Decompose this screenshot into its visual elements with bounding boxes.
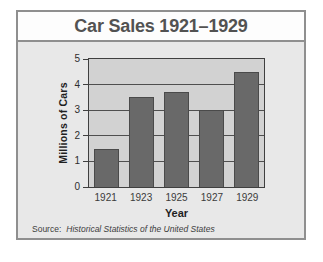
y-tick-mark-2 — [83, 135, 88, 136]
y-tick-mark-1 — [83, 161, 88, 162]
y-tick-mark-5 — [83, 59, 88, 60]
y-tick-label-3: 3 — [63, 104, 80, 116]
x-tick-label-1921: 1921 — [95, 192, 117, 203]
x-tick-label-1927: 1927 — [201, 192, 223, 203]
y-tick-mark-0 — [83, 187, 88, 188]
bar-1921 — [94, 149, 119, 187]
page: Car Sales 1921–1929 Millions of Cars 012… — [0, 0, 323, 262]
x-tick-label-1925: 1925 — [165, 192, 187, 203]
bar-1929 — [234, 72, 259, 187]
y-tick-mark-3 — [83, 110, 88, 111]
y-tick-label-5: 5 — [63, 53, 80, 65]
source-title: Historical Statistics of the United Stat… — [66, 224, 214, 234]
x-axis-tick-labels: 19211923192519271929 — [88, 192, 265, 205]
y-axis-label: Millions of Cars — [56, 58, 70, 188]
y-tick-mark-4 — [83, 84, 88, 85]
chart-title: Car Sales 1921–1929 — [18, 12, 304, 40]
plot-area: 012345 — [88, 58, 265, 188]
bar-1925 — [164, 92, 189, 187]
y-tick-label-4: 4 — [63, 79, 80, 91]
x-axis-label: Year — [88, 207, 265, 219]
bar-1923 — [129, 97, 154, 187]
x-tick-label-1929: 1929 — [236, 192, 258, 203]
chart-card: Car Sales 1921–1929 Millions of Cars 012… — [16, 10, 306, 240]
source-note: Source:Historical Statistics of the Unit… — [32, 224, 296, 234]
source-prefix: Source: — [32, 224, 61, 234]
title-banner: Car Sales 1921–1929 — [18, 12, 304, 42]
y-tick-label-1: 1 — [63, 155, 80, 167]
x-tick-label-1923: 1923 — [130, 192, 152, 203]
y-tick-label-2: 2 — [63, 130, 80, 142]
y-tick-label-0: 0 — [63, 181, 80, 193]
bar-1927 — [199, 110, 224, 187]
